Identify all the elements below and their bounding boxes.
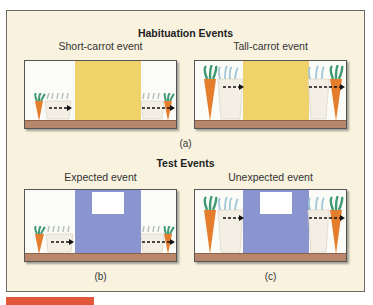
short-carrot-event-label: Short-carrot event — [24, 40, 177, 52]
ground — [25, 120, 176, 128]
yellow-screen — [243, 61, 309, 121]
short-carrots-right-icon — [140, 226, 176, 254]
screen-window — [260, 192, 292, 214]
tall-carrot-habituation-scene — [194, 60, 347, 129]
short-carrots-left-icon — [33, 226, 75, 254]
blue-screen-with-window — [75, 189, 141, 254]
unexpected-event-scene — [194, 189, 347, 262]
expected-event-label: Expected event — [24, 171, 177, 183]
ground — [25, 253, 176, 261]
ground — [195, 120, 346, 128]
ground — [195, 253, 346, 261]
tall-carrot-event-label: Tall-carrot event — [194, 40, 347, 52]
short-carrots-left-icon — [33, 93, 73, 121]
tall-carrots-right-icon — [307, 196, 347, 254]
yellow-screen — [75, 61, 141, 121]
screen-window — [92, 192, 124, 214]
blue-screen-with-window — [243, 189, 309, 254]
habituation-events-heading: Habituation Events — [7, 27, 364, 39]
tall-carrots-right-icon — [307, 65, 347, 121]
short-carrots-right-icon — [140, 93, 176, 121]
unexpected-event-label: Unexpected event — [194, 171, 347, 183]
short-carrot-habituation-scene — [24, 60, 177, 129]
figure-frame: Habituation Events Short-carrot event Ta… — [6, 10, 365, 292]
tall-carrots-left-icon — [203, 196, 245, 254]
habituation-caption: (a) — [109, 138, 262, 149]
expected-event-scene — [24, 189, 177, 262]
tall-carrots-left-icon — [203, 65, 245, 121]
accent-bar — [6, 297, 94, 305]
test-events-heading: Test Events — [7, 157, 364, 169]
expected-caption: (b) — [24, 271, 177, 282]
unexpected-caption: (c) — [194, 271, 347, 282]
